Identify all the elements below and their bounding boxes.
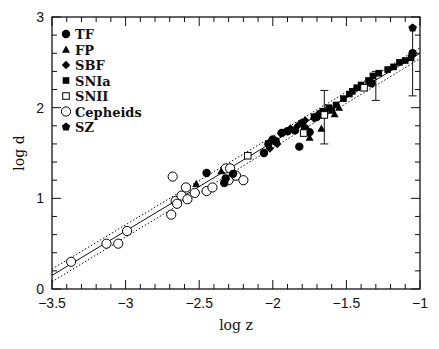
x-axis-label: log z — [219, 317, 253, 333]
tick-labels: −3.5−3−2.5−2−1.5−10123 — [36, 9, 428, 311]
legend-item-sbf: SBF — [62, 58, 106, 73]
legend: TFFPSBFSNIaSNIICepheidsSZ — [61, 27, 141, 135]
legend-label: SNII — [75, 89, 108, 104]
open-circle-icon — [122, 226, 131, 235]
filled-circle-icon — [260, 149, 268, 157]
filled-square-icon — [384, 66, 391, 73]
filled-triangle-icon — [192, 180, 200, 187]
open-circle-icon — [208, 183, 217, 192]
filled-circle-icon — [202, 169, 210, 177]
legend-label: SZ — [75, 120, 94, 135]
legend-label: SNIa — [75, 74, 111, 89]
open-circle-icon — [183, 195, 192, 204]
y-axis-label: log d — [11, 135, 27, 170]
x-tick-label: −1 — [412, 295, 428, 311]
open-square-icon — [244, 152, 251, 159]
filled-circle-icon — [221, 174, 229, 182]
open-circle-icon — [114, 239, 123, 248]
filled-square-icon — [396, 59, 403, 66]
x-tick-label: −2 — [265, 295, 281, 311]
filled-square-icon — [370, 73, 377, 80]
open-circle-icon — [167, 210, 176, 219]
x-tick-label: −1.5 — [333, 295, 361, 311]
open-circle-icon — [61, 107, 70, 116]
filled-circle-icon — [229, 170, 237, 178]
filled-pentagon-icon — [408, 23, 416, 31]
y-tick-label: 1 — [36, 190, 44, 206]
legend-item-snii: SNII — [63, 89, 109, 104]
legend-label: TF — [75, 27, 95, 42]
legend-item-snia: SNIa — [63, 74, 112, 89]
filled-diamond-icon — [62, 61, 70, 69]
y-tick-label: 2 — [36, 100, 44, 116]
open-square-icon — [361, 84, 368, 91]
filled-square-icon — [375, 70, 382, 77]
legend-item-sz: SZ — [62, 120, 95, 135]
open-circle-icon — [102, 239, 111, 248]
filled-pentagon-icon — [62, 123, 70, 131]
scatter-chart: −3.5−3−2.5−2−1.5−10123 TFFPSBFSNIaSNIICe… — [0, 0, 439, 349]
legend-item-tf: TF — [62, 27, 95, 42]
data-points — [67, 23, 417, 266]
x-tick-label: −3 — [118, 295, 134, 311]
open-circle-icon — [67, 257, 76, 266]
filled-circle-icon — [295, 142, 303, 150]
filled-square-icon — [340, 95, 347, 102]
open-square-icon — [63, 93, 70, 100]
filled-square-icon — [63, 77, 70, 84]
filled-square-icon — [311, 113, 318, 120]
legend-label: FP — [75, 43, 94, 58]
filled-square-icon — [408, 55, 415, 62]
filled-circle-icon — [62, 30, 70, 38]
open-square-icon — [300, 130, 307, 137]
legend-label: SBF — [75, 58, 105, 73]
open-circle-icon — [239, 176, 248, 185]
legend-item-fp: FP — [62, 43, 94, 58]
filled-square-icon — [333, 102, 340, 109]
y-tick-label: 0 — [36, 281, 44, 297]
open-circle-icon — [181, 183, 190, 192]
filled-square-icon — [402, 57, 409, 64]
open-square-icon — [321, 112, 328, 119]
filled-triangle-icon — [62, 46, 70, 53]
x-tick-label: −2.5 — [185, 295, 213, 311]
legend-label: Cepheids — [75, 105, 142, 120]
legend-item-cepheids: Cepheids — [61, 105, 141, 120]
filled-square-icon — [390, 64, 397, 71]
series-sz — [408, 23, 416, 31]
x-tick-label: −3.5 — [38, 295, 66, 311]
open-circle-icon — [190, 188, 199, 197]
y-tick-label: 3 — [36, 9, 44, 25]
open-circle-icon — [168, 172, 177, 181]
